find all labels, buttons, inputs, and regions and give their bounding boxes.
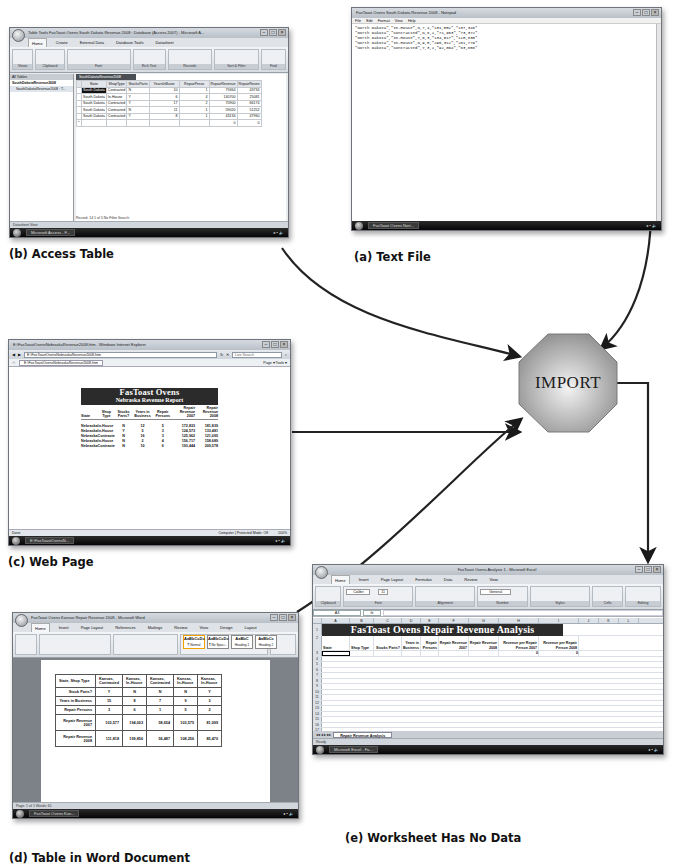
menu-format[interactable]: Format — [378, 18, 390, 23]
ribbon-group-records[interactable]: Records — [168, 49, 213, 70]
font-size-select[interactable]: 11 — [378, 589, 388, 595]
header-cell[interactable]: Years in Business — [402, 636, 421, 650]
search-icon[interactable]: ⌕ — [285, 353, 287, 357]
minimize-button[interactable]: – — [262, 341, 270, 348]
minimize-button[interactable]: – — [633, 9, 641, 16]
taskbar-item[interactable]: E:\FasToastOvensN... — [25, 537, 74, 544]
header-cell[interactable]: Repair Revenue 2007 — [439, 636, 469, 650]
minimize-button[interactable]: – — [260, 29, 268, 36]
ribbon-group-number[interactable]: General Number — [477, 586, 527, 607]
header-cell[interactable]: State — [322, 636, 350, 650]
close-button[interactable]: × — [653, 566, 661, 573]
insert-function-button[interactable]: fx — [363, 610, 381, 616]
ribbon-group-cells[interactable]: Cells — [592, 586, 623, 607]
close-button[interactable]: × — [288, 614, 296, 621]
minimize-button[interactable]: – — [270, 614, 278, 621]
header-cell[interactable]: Repair Persons — [421, 636, 439, 650]
select-all[interactable] — [313, 618, 322, 623]
taskbar-item[interactable]: Microsoft Excel - Fa... — [329, 746, 378, 753]
browser-tab[interactable]: E:\FasToastOvensNebraskaRevenue2008.htm — [19, 360, 103, 366]
style-heading-2[interactable]: AaBbCcHeading 2 — [255, 635, 277, 649]
ribbon-group-alignment[interactable]: Alignment — [415, 586, 475, 607]
header-cell[interactable]: Shop Type — [350, 636, 374, 650]
tab-page-layout[interactable]: Page Layout — [78, 623, 106, 632]
stop-icon[interactable]: ✕ — [226, 353, 229, 357]
ribbon-group-font[interactable]: Font — [67, 49, 131, 70]
office-button[interactable] — [15, 614, 28, 627]
ribbon-group-paragraph[interactable] — [113, 634, 178, 655]
ribbon-group-clipboard[interactable] — [15, 634, 37, 655]
taskbar-item[interactable]: Microsoft Access - F... — [26, 229, 75, 236]
style-no-spacing[interactable]: AaBbCcDc¶ No Spaci... — [207, 635, 229, 649]
page-tools-menu[interactable]: Page ▾ Tools ▾ — [263, 361, 287, 365]
menu-file[interactable]: File — [355, 18, 361, 23]
new-record-row[interactable]: * 00 — [77, 120, 262, 127]
cell-i3[interactable]: 0 — [539, 651, 579, 656]
back-icon[interactable]: ◀ — [12, 353, 15, 357]
minimize-button[interactable]: – — [635, 566, 643, 573]
ribbon-group-sort-filter[interactable]: Sort & Filter — [214, 49, 259, 70]
maximize-button[interactable]: □ — [279, 614, 287, 621]
tab-insert[interactable]: Insert — [356, 575, 372, 584]
tab-view[interactable]: View — [486, 575, 501, 584]
start-button[interactable] — [16, 810, 24, 818]
start-button[interactable] — [13, 229, 21, 237]
office-button[interactable] — [315, 566, 328, 579]
style-normal[interactable]: AaBbCcDc¶ Normal — [183, 635, 205, 649]
maximize-button[interactable]: □ — [642, 9, 650, 16]
start-button[interactable] — [355, 222, 363, 230]
font-name-select[interactable]: Calibri — [346, 589, 370, 595]
maximize-button[interactable]: □ — [269, 29, 277, 36]
nav-table-item[interactable]: SouthDakotaRevenue2008 : T... — [10, 86, 73, 92]
tab-home[interactable]: Home — [31, 623, 50, 632]
maximize-button[interactable]: □ — [644, 566, 652, 573]
header-cell[interactable]: Stocks Parts? — [374, 636, 402, 650]
tab-database-tools[interactable]: Database Tools — [113, 38, 147, 47]
start-button[interactable] — [316, 746, 324, 754]
tab-datasheet[interactable]: Datasheet — [152, 38, 176, 47]
record-navigator[interactable]: Record: 14 1 of 5 No Filter Search — [76, 216, 129, 220]
ribbon-group-clipboard[interactable]: Clipboard — [35, 49, 64, 70]
close-button[interactable]: × — [278, 29, 286, 36]
tab-design[interactable]: Design — [217, 623, 235, 632]
name-box[interactable]: A3 — [313, 610, 361, 616]
cell-h3[interactable]: 0 — [499, 651, 539, 656]
tab-data[interactable]: Data — [441, 575, 455, 584]
favorites-icon[interactable]: ☆ — [12, 361, 16, 365]
tab-mailings[interactable]: Mailings — [145, 623, 166, 632]
worksheet-grid[interactable]: A B C D E F G H I J K L 1 FasToast Ovens… — [313, 618, 663, 729]
close-button[interactable]: × — [280, 341, 288, 348]
tab-references[interactable]: References — [112, 623, 138, 632]
style-heading-1[interactable]: AaBbCHeading 1 — [231, 635, 253, 649]
document-page[interactable]: State, Shop Type Kansas, Contracted Kans… — [41, 660, 270, 803]
menu-edit[interactable]: Edit — [366, 18, 373, 23]
tab-review[interactable]: Review — [171, 623, 190, 632]
address-input[interactable]: E:\FasToastOvensNebraskaRevenue2008.htm — [24, 352, 217, 358]
tab-view[interactable]: View — [196, 623, 211, 632]
tab-page-layout[interactable]: Page Layout — [378, 575, 406, 584]
tab-home[interactable]: Home — [28, 38, 47, 47]
formula-input[interactable] — [383, 610, 663, 616]
tab-create[interactable]: Create — [53, 38, 71, 47]
refresh-icon[interactable]: ↻ — [220, 353, 223, 357]
tab-formulas[interactable]: Formulas — [412, 575, 435, 584]
tab-layout[interactable]: Layout — [241, 623, 259, 632]
text-content[interactable]: "North Dakota","In-House",N,7,4,"131,551… — [352, 24, 661, 53]
search-input[interactable]: Live Search — [232, 352, 282, 358]
taskbar-item[interactable]: FasToast Ovens Nort... — [368, 222, 419, 229]
tab-review[interactable]: Review — [461, 575, 480, 584]
forward-icon[interactable]: ▶ — [18, 353, 21, 357]
maximize-button[interactable]: □ — [271, 341, 279, 348]
header-cell[interactable]: Revenue per Repair Person 2008 — [539, 636, 579, 650]
ribbon-group-find[interactable]: Find — [261, 49, 286, 70]
close-button[interactable]: × — [651, 9, 659, 16]
menu-view[interactable]: View — [395, 18, 403, 23]
header-cell[interactable]: Repair Revenue 2008 — [469, 636, 499, 650]
taskbar-item[interactable]: FasToast Ovens Kan... — [29, 810, 79, 817]
header-cell[interactable]: Revenue per Repair Person 2007 — [499, 636, 539, 650]
vertical-scrollbar[interactable] — [656, 24, 661, 221]
sheet-nav-arrows[interactable]: ◂◂ ◂ ▸ ▸▸ — [316, 732, 331, 737]
ribbon-group-views[interactable]: Views — [12, 49, 33, 70]
office-button[interactable] — [12, 29, 25, 42]
active-cell-a3[interactable] — [322, 651, 350, 656]
